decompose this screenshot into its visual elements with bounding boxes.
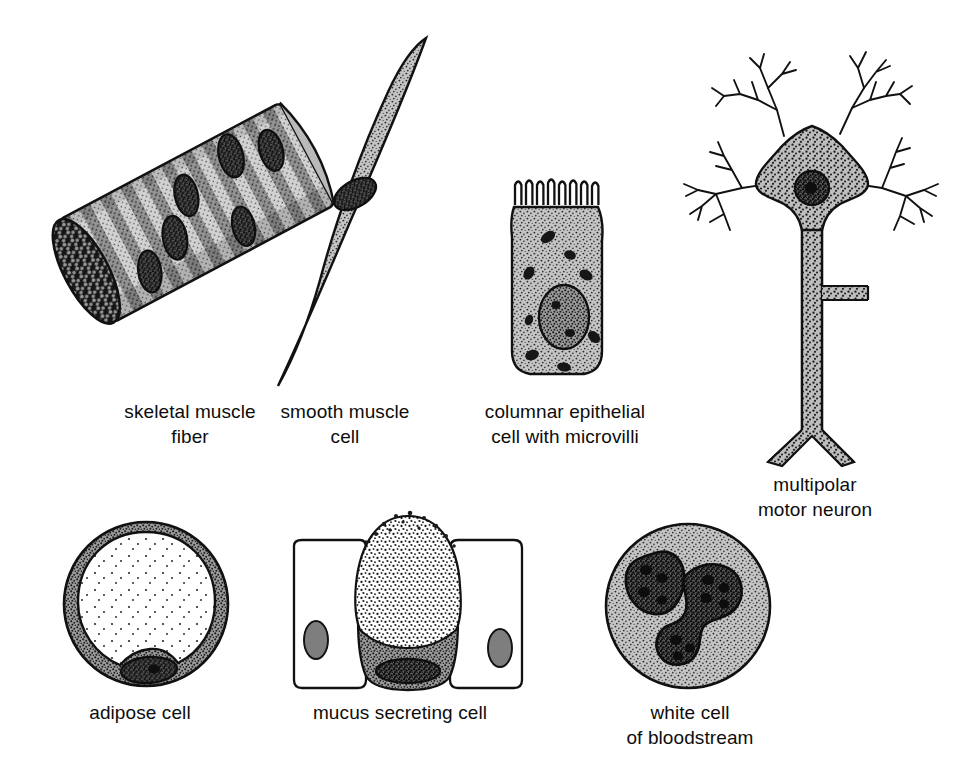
figure-smooth-muscle-cell xyxy=(258,30,458,400)
caption-adipose-cell: adipose cell xyxy=(40,700,240,725)
neighbour-nucleus-right xyxy=(488,629,512,667)
mucus-secreting-cell-drawing xyxy=(288,508,528,698)
caption-multipolar-motor-neuron: multipolar motor neuron xyxy=(695,472,935,522)
adipose-cell-drawing xyxy=(58,518,238,693)
figure-columnar-epithelial-cell xyxy=(498,175,628,390)
caption-white-cell-of-bloodstream: white cell of bloodstream xyxy=(590,700,790,750)
lipid-droplet xyxy=(78,532,215,665)
dendrite xyxy=(840,52,912,134)
cell-types-plate: skeletal muscle fiber smooth muscle cell… xyxy=(0,0,954,775)
caption-smooth-muscle-cell: smooth muscle cell xyxy=(225,399,465,449)
goblet-nucleus xyxy=(376,659,440,683)
neighbour-nucleus-left xyxy=(304,621,328,659)
nucleolus xyxy=(148,665,160,674)
nucleolus xyxy=(565,329,575,337)
figure-mucus-secreting-cell xyxy=(288,508,528,698)
figure-adipose-cell xyxy=(58,518,238,693)
white-cell-drawing xyxy=(600,520,780,700)
caption-columnar-epithelial-cell: columnar epithelial cell with microvilli xyxy=(445,399,685,449)
axon xyxy=(768,228,868,466)
nucleolus xyxy=(805,182,817,194)
columnar-epithelial-cell-drawing xyxy=(498,175,628,390)
smooth-muscle-cell-drawing xyxy=(258,30,458,400)
columnar-nucleus xyxy=(539,285,589,349)
caption-mucus-secreting-cell: mucus secreting cell xyxy=(280,700,520,725)
microvilli-brush-border xyxy=(515,180,598,206)
figure-white-cell-of-bloodstream xyxy=(600,520,780,700)
smooth-muscle-cytoplasm xyxy=(278,38,426,386)
nucleolus xyxy=(552,301,561,309)
multipolar-motor-neuron-drawing xyxy=(672,38,954,468)
dendrite xyxy=(712,54,796,136)
figure-multipolar-motor-neuron xyxy=(672,38,954,468)
